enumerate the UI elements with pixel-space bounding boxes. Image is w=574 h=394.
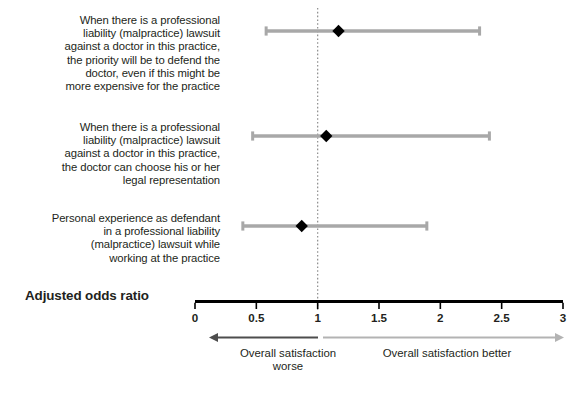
x-tick-label-1: 0.5 xyxy=(248,311,264,324)
x-tick-label-4: 2 xyxy=(437,311,443,324)
x-tick-label-6: 3 xyxy=(560,311,566,324)
annotation-better: Overall satisfaction better xyxy=(352,347,542,360)
plot-canvas xyxy=(0,0,574,394)
annotation-worse: Overall satisfaction worse xyxy=(238,347,338,374)
x-tick-label-3: 1.5 xyxy=(371,311,387,324)
arrow-better-head xyxy=(555,333,564,342)
x-tick-label-5: 2.5 xyxy=(494,311,510,324)
arrow-worse-head xyxy=(209,333,218,342)
x-tick-label-0: 0 xyxy=(192,311,198,324)
x-tick-label-2: 1 xyxy=(314,311,320,324)
point-marker-2 xyxy=(320,130,332,142)
point-marker-1 xyxy=(332,25,344,37)
point-marker-3 xyxy=(296,220,308,232)
